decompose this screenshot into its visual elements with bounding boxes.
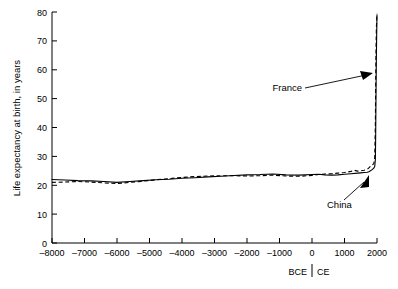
y-tick-label-20: 20 <box>37 181 47 191</box>
y-tick-label-40: 40 <box>37 123 47 133</box>
y-tick-label-0: 0 <box>42 239 47 249</box>
bce-label: BCE <box>288 267 307 277</box>
annotation-label-france: France <box>272 82 302 93</box>
x-tick-label-1000: 1000 <box>334 248 354 258</box>
annotation-label-china: China <box>327 199 353 210</box>
data-series-group <box>52 13 377 183</box>
x-axis-ticks <box>52 238 377 243</box>
x-axis-tick-labels: –8000 –7000 –6000 –5000 –4000 –3000 –200… <box>39 248 387 258</box>
x-tick-label-0: 0 <box>309 248 314 258</box>
annotation-arrow-france <box>360 71 373 80</box>
era-annotation: BCE CE <box>288 264 329 277</box>
y-tick-label-60: 60 <box>37 65 47 75</box>
x-tick-label-m1000: –1000 <box>267 248 292 258</box>
chart-figure: 80 70 60 50 40 30 20 10 0 –8000 <box>0 0 398 289</box>
annotation-leader-france <box>305 75 366 88</box>
series-line-france <box>52 13 377 183</box>
y-tick-label-70: 70 <box>37 36 47 46</box>
x-tick-label-m6000: –6000 <box>104 248 129 258</box>
y-tick-label-30: 30 <box>37 152 47 162</box>
x-tick-label-m8000: –8000 <box>39 248 64 258</box>
x-tick-label-m7000: –7000 <box>72 248 97 258</box>
annotation-france: France <box>272 71 373 93</box>
x-tick-label-m3000: –3000 <box>202 248 227 258</box>
ce-label: CE <box>317 267 330 277</box>
series-line-china <box>52 15 377 182</box>
y-tick-label-50: 50 <box>37 94 47 104</box>
y-axis-ticks <box>52 12 57 243</box>
annotation-leader-china <box>344 182 364 200</box>
y-tick-label-80: 80 <box>37 8 47 18</box>
y-axis-title: Life expectancy at birth, in years <box>11 60 22 196</box>
x-tick-label-2000: 2000 <box>367 248 387 258</box>
x-tick-label-m2000: –2000 <box>234 248 259 258</box>
x-tick-label-m5000: –5000 <box>137 248 162 258</box>
annotation-arrow-china <box>360 175 369 188</box>
y-axis-tick-labels: 80 70 60 50 40 30 20 10 0 <box>37 8 47 249</box>
x-tick-label-m4000: –4000 <box>169 248 194 258</box>
y-tick-label-10: 10 <box>37 210 47 220</box>
annotation-china: China <box>327 175 369 210</box>
life-expectancy-line-chart: 80 70 60 50 40 30 20 10 0 –8000 <box>0 0 398 289</box>
